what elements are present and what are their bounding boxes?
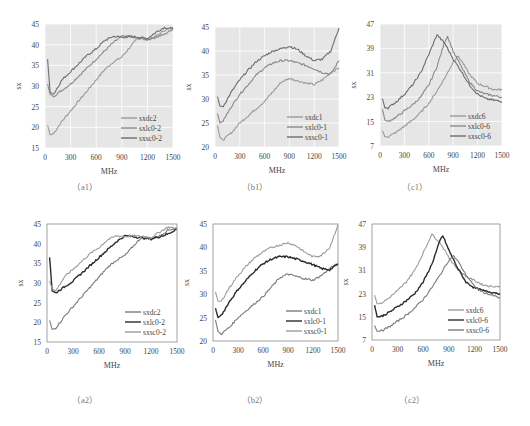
y-axis-label: sx (349, 81, 358, 88)
y-tick-label: 20 (200, 337, 208, 346)
y-tick-label: 25 (202, 119, 210, 128)
x-tick-label: 1500 (331, 346, 346, 355)
x-tick-label: 0 (45, 347, 49, 356)
y-axis-label: sx (184, 83, 193, 90)
x-tick-label: 300 (234, 152, 246, 161)
panel-caption: （a1） (72, 182, 98, 192)
panel-caption: （c1） (402, 182, 428, 192)
x-tick-label: 900 (119, 347, 131, 356)
legend-label: sxdc1 (304, 307, 322, 316)
legend-label: sxlc0-1 (305, 123, 327, 132)
charts-canvas: 15202530354045030060090012001500MHzsxsxd… (0, 0, 530, 426)
y-tick-label: 7 (370, 142, 374, 151)
x-tick-label: 600 (418, 345, 430, 354)
legend-label: sxdc6 (466, 306, 484, 315)
legend-label: sxsc0-6 (468, 132, 491, 141)
y-tick-label: 30 (200, 290, 208, 299)
x-tick-label: 1200 (306, 346, 321, 355)
legend-label: sxlc0-1 (304, 317, 326, 326)
y-tick-label: 40 (32, 41, 40, 50)
x-axis-label: MHz (433, 165, 450, 174)
y-tick-label: 30 (32, 82, 40, 91)
chart-c2: 71523313947030060090012001500MHzsxsxdc6s… (341, 220, 508, 405)
y-tick-label: 25 (34, 299, 42, 308)
legend-label: sxdc1 (305, 113, 323, 122)
y-tick-label: 40 (34, 240, 42, 249)
chart-b1: 202530354045030060090012001500MHzsxsxdc1… (184, 23, 347, 192)
legend-label: sxsc0-6 (466, 326, 489, 335)
y-tick-label: 31 (359, 266, 367, 275)
y-tick-label: 23 (367, 93, 375, 102)
chart-c1: 71523313947030060090012001500MHzsxsxdc6s… (349, 20, 510, 192)
y-axis-label: sx (16, 279, 25, 286)
x-tick-label: 1500 (166, 153, 181, 162)
y-tick-label: 30 (202, 95, 210, 104)
x-tick-label: 900 (282, 346, 294, 355)
x-tick-label: 900 (116, 153, 128, 162)
x-tick-label: 300 (67, 347, 79, 356)
y-axis-label: sx (182, 279, 191, 286)
y-tick-label: 15 (34, 338, 42, 347)
x-tick-label: 0 (43, 153, 47, 162)
y-tick-label: 25 (32, 103, 40, 112)
x-tick-label: 300 (232, 346, 244, 355)
x-tick-label: 1200 (470, 151, 485, 160)
y-tick-label: 40 (200, 243, 208, 252)
legend-label: sxlc0-6 (466, 316, 488, 325)
panel-caption: （c2） (399, 395, 425, 405)
panel-caption: （b1） (242, 182, 269, 192)
y-tick-label: 7 (362, 336, 366, 345)
x-axis-label: MHz (101, 167, 118, 176)
x-tick-label: 600 (91, 153, 103, 162)
y-tick-label: 30 (34, 279, 42, 288)
x-tick-label: 1200 (307, 152, 322, 161)
figure-grid: 15202530354045030060090012001500MHzsxsxd… (0, 0, 530, 426)
x-axis-label: MHz (428, 359, 445, 368)
y-tick-label: 20 (32, 123, 40, 132)
y-tick-label: 39 (359, 243, 367, 252)
y-tick-label: 15 (32, 144, 40, 153)
x-tick-label: 600 (423, 151, 435, 160)
y-tick-label: 39 (367, 44, 375, 53)
panel-caption: （a2） (72, 395, 98, 405)
x-tick-label: 900 (443, 345, 455, 354)
legend-label: sxlc0-2 (143, 318, 165, 327)
y-tick-label: 25 (200, 314, 208, 323)
legend-label: sxsc0-1 (305, 133, 328, 142)
legend-label: sxlc0-2 (139, 124, 161, 133)
chart-b2: 202530354045030060090012001500MHzsxsxdc1… (182, 220, 346, 405)
x-tick-label: 1500 (493, 345, 508, 354)
x-tick-label: 600 (93, 347, 105, 356)
y-tick-label: 20 (34, 318, 42, 327)
x-tick-label: 300 (65, 153, 77, 162)
y-axis-label: sx (14, 82, 23, 89)
x-axis-label: MHz (104, 361, 121, 370)
x-tick-label: 1500 (170, 347, 185, 356)
x-tick-label: 0 (378, 151, 382, 160)
y-axis-label: sx (341, 278, 350, 285)
y-tick-label: 47 (367, 20, 375, 29)
y-tick-label: 35 (202, 71, 210, 80)
chart-a1: 15202530354045030060090012001500MHzsxsxd… (14, 20, 181, 192)
x-tick-label: 1500 (495, 151, 510, 160)
x-tick-label: 0 (370, 345, 374, 354)
legend-label: sxdc2 (139, 114, 157, 123)
legend-label: sxsc0-1 (304, 327, 327, 336)
legend-label: sxlc0-6 (468, 122, 490, 131)
y-tick-label: 40 (202, 47, 210, 56)
y-tick-label: 15 (359, 313, 367, 322)
x-tick-label: 0 (211, 346, 215, 355)
y-tick-label: 31 (367, 69, 375, 78)
x-tick-label: 300 (399, 151, 411, 160)
chart-a2: 15202530354045030060090012001500MHzsxsxd… (16, 220, 185, 405)
x-axis-label: MHz (269, 166, 286, 175)
x-tick-label: 300 (392, 345, 404, 354)
panel-caption: （b2） (242, 395, 269, 405)
x-tick-label: 1200 (140, 153, 155, 162)
x-tick-label: 900 (448, 151, 460, 160)
x-axis-label: MHz (267, 360, 284, 369)
y-tick-label: 15 (367, 118, 375, 127)
x-tick-label: 900 (284, 152, 296, 161)
x-tick-label: 1200 (144, 347, 159, 356)
y-tick-label: 23 (359, 290, 367, 299)
